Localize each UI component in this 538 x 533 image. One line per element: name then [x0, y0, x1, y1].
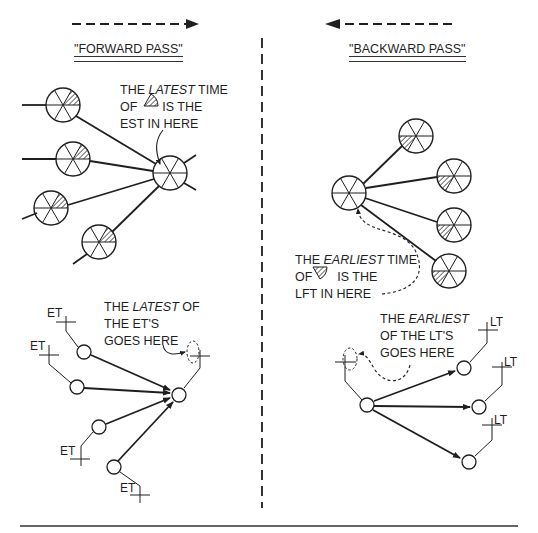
forward-et-arrows [84, 355, 173, 461]
double-underline [349, 56, 466, 62]
forward-node-4 [82, 225, 116, 259]
backward-earliest-time-note: THE EARLIEST TIME OF IS THE LFT IN HERE [295, 252, 417, 303]
forward-node-2 [56, 142, 90, 176]
lt-label: LT [504, 355, 517, 369]
forward-latest-et-note: THE LATEST OF THE ET'S GOES HERE [104, 299, 200, 350]
et-label: ET [47, 306, 62, 320]
diagram-canvas [0, 0, 538, 533]
forward-pass-arrow [72, 19, 199, 29]
backward-lt-arrows [373, 371, 470, 458]
forward-small-nodes [70, 345, 186, 474]
forward-pass-title-text: "FORWARD PASS" [74, 42, 183, 56]
lt-label: LT [494, 413, 507, 427]
backward-small-nodes [360, 361, 486, 469]
backward-earliest-lt-note: THE EARLIEST OF THE LT'S GOES HERE [380, 311, 469, 362]
backward-source-node [332, 176, 366, 210]
forward-node-3 [34, 191, 68, 225]
et-label: ET [60, 444, 75, 458]
et-label: ET [120, 481, 135, 495]
backward-node-4 [432, 254, 466, 288]
backward-pass-title: "BACKWARD PASS" [349, 42, 466, 56]
backward-activity-links [361, 146, 437, 261]
forward-node-1 [46, 88, 80, 122]
backward-node-1 [399, 119, 433, 153]
forward-latest-time-note: THE LATEST TIME OF IS THE EST IN HERE [120, 82, 228, 133]
backward-node-2 [437, 159, 471, 193]
backward-pass-arrow [325, 19, 452, 29]
lt-label: LT [490, 315, 503, 329]
backward-node-3 [437, 208, 471, 242]
forward-pass-title: "FORWARD PASS" [74, 42, 183, 56]
et-label: ET [30, 339, 45, 353]
backward-pass-title-text: "BACKWARD PASS" [349, 42, 466, 56]
forward-target-node [153, 156, 187, 190]
double-underline [74, 56, 183, 62]
